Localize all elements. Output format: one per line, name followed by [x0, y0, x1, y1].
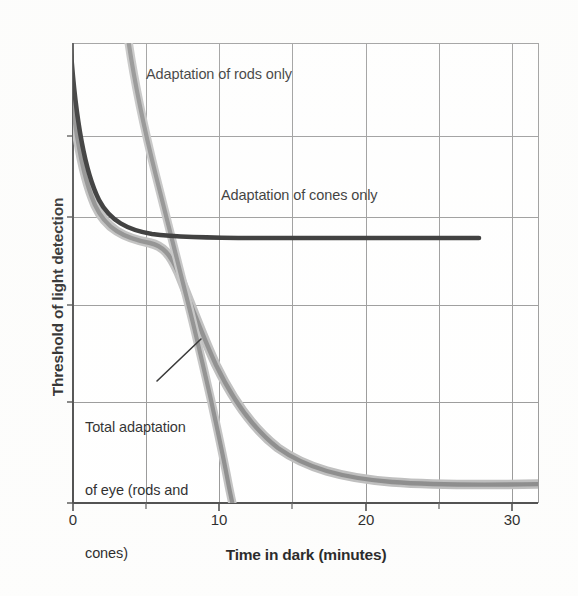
annotation-cones-only: Adaptation of cones only — [221, 185, 377, 206]
annotation-rods-only: Adaptation of rods only — [146, 64, 292, 85]
annotation-total-line-2: of eye (rods and — [85, 480, 188, 501]
x-tick-label-20: 20 — [346, 511, 386, 528]
dark-adaptation-chart: Threshold of light detection Time in dar… — [0, 0, 578, 596]
annotation-total-line-1: Total adaptation — [85, 417, 188, 438]
x-tick-label-30: 30 — [492, 511, 532, 528]
y-axis-title: Threshold of light detection — [49, 132, 67, 462]
annotation-total-line-3: cones) — [85, 543, 188, 564]
y-axis-ticks — [67, 136, 73, 503]
x-tick-label-10: 10 — [199, 511, 239, 528]
x-axis-minor-ticks — [146, 503, 439, 509]
annotation-total-adaptation: Total adaptation of eye (rods and cones) — [85, 375, 188, 596]
